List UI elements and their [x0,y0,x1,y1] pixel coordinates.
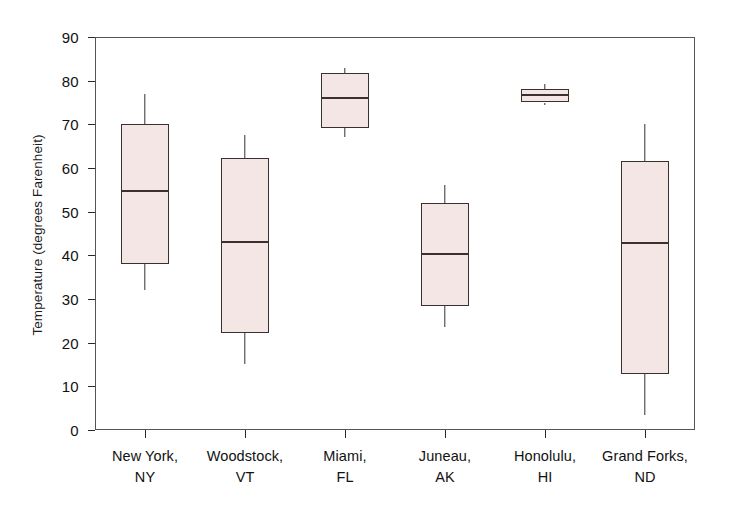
box-plot-group[interactable] [595,37,695,430]
box-iqr [321,73,369,128]
box-plot-group[interactable] [295,37,395,430]
x-tick-label-city: Woodstock, [207,448,284,464]
box-plot-group[interactable] [495,37,595,430]
box-iqr [621,161,669,374]
box-iqr [121,124,169,264]
y-tick-label: 20 [48,334,88,351]
y-tick-label: 90 [48,29,88,46]
lower-whisker [144,264,145,290]
x-tick-label: Honolulu,HI [514,446,576,487]
y-tick-mark [88,386,95,387]
x-tick-mark [345,430,346,438]
x-tick-label-city: New York, [112,448,178,464]
x-tick-mark [245,430,246,438]
lower-whisker [644,374,645,415]
box-plot-group[interactable] [195,37,295,430]
upper-whisker [244,135,245,158]
x-tick-label: Woodstock,VT [207,446,284,487]
y-tick-mark [88,343,95,344]
y-tick-label: 50 [48,203,88,220]
y-tick-label: 10 [48,378,88,395]
lower-whisker [344,128,345,138]
x-tick-label-state: VT [207,467,284,488]
x-tick-label-state: AK [419,467,471,488]
upper-whisker [144,94,145,125]
y-tick-label: 40 [48,247,88,264]
x-tick-label-city: Honolulu, [514,448,576,464]
plot-area [95,37,695,430]
x-tick-mark [445,430,446,438]
x-tick-label: Miami,FL [323,446,366,487]
upper-whisker [444,185,445,202]
y-tick-mark [88,255,95,256]
y-tick-mark [88,124,95,125]
x-tick-mark [645,430,646,438]
median-line [621,242,669,244]
x-tick-label: Juneau,AK [419,446,471,487]
box-plot-chart: Temperature (degrees Farenheit) 90807060… [0,0,731,521]
x-tick-label-city: Miami, [323,448,366,464]
y-tick-label: 0 [48,422,88,439]
median-line [121,190,169,192]
x-tick-mark [145,430,146,438]
x-tick-label-state: ND [602,467,688,488]
median-line [521,94,569,96]
median-line [421,253,469,255]
x-tick-label-city: Juneau, [419,448,471,464]
x-tick-label-state: FL [323,467,366,488]
x-tick-mark [545,430,546,438]
y-tick-mark [88,299,95,300]
x-tick-label-state: NY [112,467,178,488]
x-tick-label: New York,NY [112,446,178,487]
y-tick-mark [88,81,95,82]
x-tick-label-state: HI [514,467,576,488]
x-tick-label-city: Grand Forks, [602,448,688,464]
median-line [321,97,369,99]
y-tick-label: 70 [48,116,88,133]
y-tick-mark [88,212,95,213]
y-tick-label: 30 [48,291,88,308]
y-tick-label: 60 [48,160,88,177]
lower-whisker [444,306,445,328]
x-tick-label: Grand Forks,ND [602,446,688,487]
y-axis-title: Temperature (degrees Farenheit) [24,15,50,455]
y-tick-mark [88,430,95,431]
y-axis-tick-labels: 9080706050403020100 [48,0,88,521]
box-plot-group[interactable] [395,37,495,430]
box-plot-group[interactable] [95,37,195,430]
upper-whisker [644,124,645,161]
y-tick-mark [88,168,95,169]
lower-whisker [544,103,545,105]
y-tick-label: 80 [48,72,88,89]
y-tick-mark [88,37,95,38]
box-iqr [221,158,269,332]
median-line [221,241,269,243]
lower-whisker [244,333,245,365]
